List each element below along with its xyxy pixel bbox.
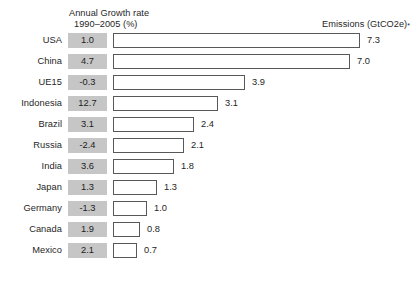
growth-rate-value: 1.0: [68, 33, 107, 48]
emissions-bar: [113, 96, 218, 111]
growth-rate-column-header: Annual Growth rate 1990–2005 (%): [63, 8, 223, 31]
country-label: Germany: [0, 201, 62, 216]
emissions-bar: [113, 33, 360, 48]
emissions-column-header: Emissions (GtCO2e)*: [322, 19, 410, 30]
table-row: Mexico2.10.7: [0, 243, 419, 264]
growth-rate-value: 1.9: [68, 222, 107, 237]
emissions-value-label: 3.1: [225, 96, 238, 111]
table-row: India3.61.8: [0, 159, 419, 180]
chart-rows: USA1.07.3China4.77.0UE15-0.33.9Indonesia…: [0, 33, 419, 264]
table-row: Indonesia12.73.1: [0, 96, 419, 117]
country-label: Canada: [0, 222, 62, 237]
country-label: China: [0, 54, 62, 69]
emissions-bar: [113, 159, 174, 174]
emissions-bar: [113, 222, 140, 237]
country-label: India: [0, 159, 62, 174]
emissions-growth-chart: Annual Growth rate 1990–2005 (%) Emissio…: [0, 0, 419, 284]
table-row: China4.77.0: [0, 54, 419, 75]
growth-rate-value: -2.4: [68, 138, 107, 153]
growth-rate-value: 1.3: [68, 180, 107, 195]
emissions-value-label: 3.9: [252, 75, 265, 90]
footnote-asterisk: *: [407, 22, 410, 29]
country-label: UE15: [0, 75, 62, 90]
emissions-bar: [113, 243, 137, 258]
emissions-header-label: Emissions (GtCO2e): [322, 19, 407, 29]
growth-rate-header-line2: 1990–2005 (%): [63, 19, 223, 30]
growth-rate-value: 12.7: [68, 96, 107, 111]
table-row: Germany-1.31.0: [0, 201, 419, 222]
country-label: Brazil: [0, 117, 62, 132]
emissions-value-label: 2.1: [191, 138, 204, 153]
growth-rate-value: -0.3: [68, 75, 107, 90]
growth-rate-value: 3.6: [68, 159, 107, 174]
emissions-bar: [113, 201, 147, 216]
emissions-value-label: 7.3: [367, 33, 380, 48]
growth-rate-value: -1.3: [68, 201, 107, 216]
emissions-value-label: 1.0: [154, 201, 167, 216]
growth-rate-value: 3.1: [68, 117, 107, 132]
emissions-bar: [113, 75, 245, 90]
emissions-value-label: 7.0: [357, 54, 370, 69]
table-row: Canada1.90.8: [0, 222, 419, 243]
emissions-bar: [113, 180, 157, 195]
table-row: Japan1.31.3: [0, 180, 419, 201]
growth-rate-header-line1: Annual Growth rate: [63, 8, 223, 19]
emissions-value-label: 1.3: [164, 180, 177, 195]
table-row: Russia-2.42.1: [0, 138, 419, 159]
country-label: Japan: [0, 180, 62, 195]
growth-rate-value: 4.7: [68, 54, 107, 69]
emissions-bar: [113, 138, 184, 153]
emissions-value-label: 1.8: [181, 159, 194, 174]
emissions-value-label: 0.8: [147, 222, 160, 237]
country-label: Russia: [0, 138, 62, 153]
emissions-value-label: 2.4: [201, 117, 214, 132]
emissions-bar: [113, 117, 194, 132]
growth-rate-value: 2.1: [68, 243, 107, 258]
table-row: UE15-0.33.9: [0, 75, 419, 96]
table-row: USA1.07.3: [0, 33, 419, 54]
country-label: Mexico: [0, 243, 62, 258]
country-label: Indonesia: [0, 96, 62, 111]
emissions-bar: [113, 54, 350, 69]
emissions-value-label: 0.7: [144, 243, 157, 258]
country-label: USA: [0, 33, 62, 48]
table-row: Brazil3.12.4: [0, 117, 419, 138]
